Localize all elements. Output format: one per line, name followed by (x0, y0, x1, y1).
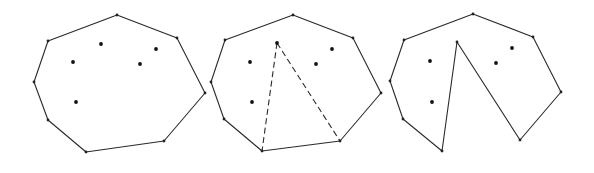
hull-polygon (211, 15, 381, 151)
hull-vertex (441, 150, 444, 153)
hull-vertex (560, 91, 563, 94)
hull-vertex (47, 119, 50, 122)
panel-polygon-with-inserted-point (389, 13, 563, 153)
hull-vertex (456, 41, 459, 44)
interior-point (71, 60, 75, 64)
hull-vertex (223, 118, 226, 121)
hull-vertex (85, 151, 88, 154)
interior-point (74, 100, 78, 104)
interior-point (428, 59, 432, 63)
interior-point (330, 47, 334, 51)
hull-vertex (163, 140, 166, 143)
interior-point (250, 100, 254, 104)
hull-vertex (519, 139, 522, 142)
interior-point (154, 47, 158, 51)
interior-point (248, 60, 252, 64)
panel-convex-hull (33, 14, 207, 154)
hull-vertex (204, 92, 207, 95)
interior-point (275, 41, 279, 45)
hull-vertex (47, 40, 50, 43)
hull-vertex (210, 81, 213, 84)
interior-point (99, 42, 103, 46)
hull-vertex (380, 92, 383, 95)
dashed-edge (262, 43, 277, 151)
interior-point (138, 62, 142, 66)
hull-vertex (402, 118, 405, 121)
hull-vertex (116, 14, 119, 17)
hull-vertex (472, 13, 475, 16)
diagram-canvas (0, 0, 594, 173)
hull-vertex (403, 39, 406, 42)
interior-point (314, 62, 318, 66)
interior-point (510, 46, 514, 50)
hull-polygon (390, 14, 561, 151)
panel-hull-with-dashed-triangle (210, 14, 383, 153)
interior-point (430, 100, 434, 104)
hull-vertex (532, 36, 535, 39)
hull-vertex (292, 14, 295, 17)
dashed-edge (277, 43, 340, 141)
hull-vertex (224, 39, 227, 42)
hull-vertex (33, 81, 36, 84)
hull-vertex (261, 150, 264, 153)
interior-point (494, 61, 498, 65)
hull-vertex (176, 37, 179, 40)
hull-vertex (339, 140, 342, 143)
hull-polygon (34, 15, 205, 152)
hull-vertex (389, 80, 392, 83)
hull-vertex (352, 37, 355, 40)
